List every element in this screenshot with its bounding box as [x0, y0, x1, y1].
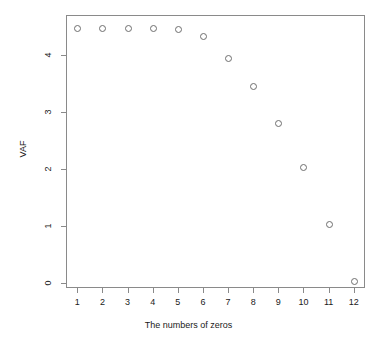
- x-axis-tick: [303, 288, 304, 293]
- y-axis-tick-label: 1: [43, 216, 53, 236]
- y-axis-tick: [61, 283, 66, 284]
- x-axis-tick-label: 8: [241, 297, 265, 307]
- x-axis-tick-label: 9: [266, 297, 290, 307]
- x-axis-tick-label: 12: [342, 297, 366, 307]
- x-axis-tick-label: 3: [116, 297, 140, 307]
- x-axis-tick: [228, 288, 229, 293]
- x-axis-title: The numbers of zeros: [0, 320, 377, 330]
- plot-frame: [66, 15, 365, 288]
- x-axis-tick-label: 1: [65, 297, 89, 307]
- y-axis-tick: [61, 112, 66, 113]
- x-axis-tick: [203, 288, 204, 293]
- x-axis-tick-label: 4: [141, 297, 165, 307]
- y-axis-tick-label: 3: [43, 102, 53, 122]
- y-axis-tick-label: 2: [43, 159, 53, 179]
- x-axis-tick-label: 5: [166, 297, 190, 307]
- x-axis-tick: [102, 288, 103, 293]
- x-axis-tick: [77, 288, 78, 293]
- x-axis-tick: [354, 288, 355, 293]
- x-axis-tick: [178, 288, 179, 293]
- x-axis-tick: [153, 288, 154, 293]
- x-axis-tick-label: 7: [216, 297, 240, 307]
- x-axis-tick: [329, 288, 330, 293]
- y-axis-tick: [61, 226, 66, 227]
- y-axis-tick-label: 0: [43, 273, 53, 293]
- x-axis-tick-label: 10: [291, 297, 315, 307]
- y-axis-tick: [61, 55, 66, 56]
- y-axis-tick: [61, 169, 66, 170]
- x-axis-tick-label: 11: [317, 297, 341, 307]
- y-axis-tick-label: 4: [43, 45, 53, 65]
- x-axis-tick: [253, 288, 254, 293]
- y-axis-title: VAF: [18, 134, 28, 164]
- scatter-plot-figure: 123456789101112 01234 The numbers of zer…: [0, 0, 377, 343]
- x-axis-tick-label: 6: [191, 297, 215, 307]
- x-axis-tick-label: 2: [90, 297, 114, 307]
- x-axis-tick: [278, 288, 279, 293]
- x-axis-tick: [128, 288, 129, 293]
